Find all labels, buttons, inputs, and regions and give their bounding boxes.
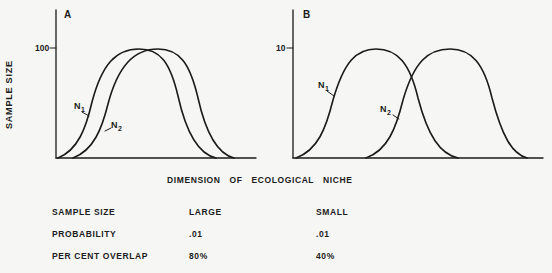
x-axis-label: DIMENSION OF ECOLOGICAL NICHE — [167, 175, 352, 185]
n2-text: N2 — [111, 120, 123, 130]
row-label: PROBABILITY — [52, 229, 116, 239]
panel-a-curve-n2 — [73, 49, 234, 158]
value-b: .01 — [316, 229, 330, 239]
row-label: PER CENT OVERLAP — [52, 251, 148, 261]
value-b: 40% — [316, 251, 335, 261]
n1-text: N1 — [74, 101, 86, 111]
value-a: .01 — [189, 229, 203, 239]
table-row: SAMPLE SIZE LARGE SMALL — [0, 207, 552, 219]
panel-b-n2-label: N2 — [380, 104, 392, 116]
panel-b-label: B — [303, 9, 311, 20]
panel-a-ytick: 100 — [35, 43, 49, 53]
panel-b-curve-n1 — [296, 49, 458, 158]
table-row: PER CENT OVERLAP 80% 40% — [0, 251, 552, 263]
n2-text: N2 — [380, 104, 392, 114]
value-a: 80% — [189, 251, 208, 261]
table-row: PROBABILITY .01 .01 — [0, 229, 552, 241]
panel-b-n1-label: N1 — [318, 80, 330, 92]
panel-a-label: A — [64, 9, 72, 20]
value-a: LARGE — [189, 207, 222, 217]
panel-b-ytick: 10 — [276, 43, 285, 53]
figure-plots — [0, 0, 552, 173]
value-b: SMALL — [316, 207, 348, 217]
panel-a-n1-label: N1 — [74, 101, 86, 113]
y-axis-label: SAMPLE SIZE — [4, 60, 14, 129]
panel-a-n2-label: N2 — [111, 120, 123, 132]
n1-text: N1 — [318, 80, 330, 90]
row-label: SAMPLE SIZE — [52, 207, 115, 217]
